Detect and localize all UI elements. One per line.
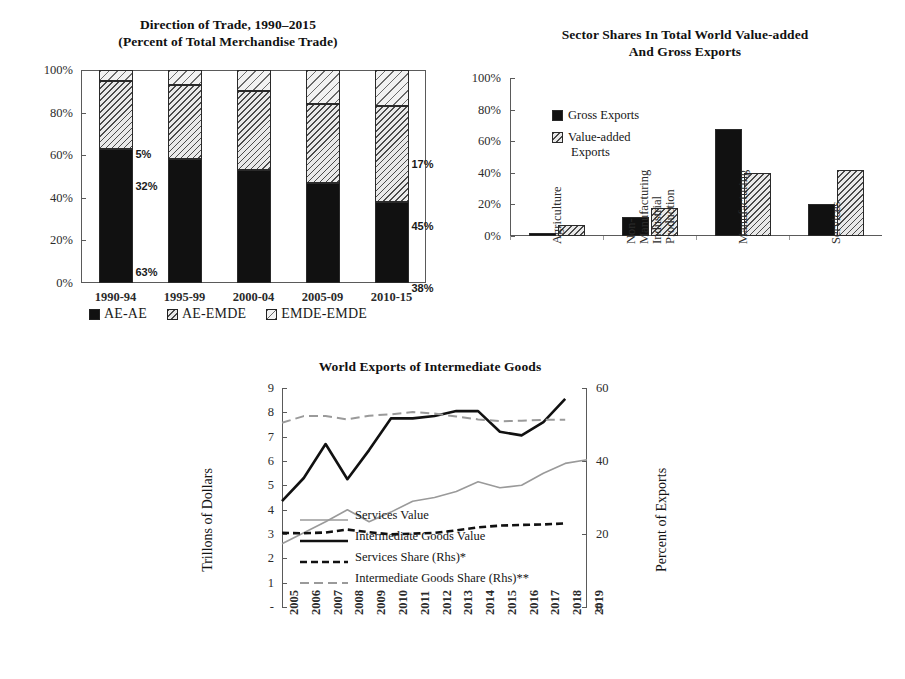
chart1-y-tick-label: 80% <box>18 105 73 120</box>
chart1-legend-swatch-icon <box>167 309 178 320</box>
chart2-x-tick <box>789 236 790 240</box>
chart3-legend-item: Services Value <box>298 508 568 526</box>
chart3-plot-area: Services ValueIntermediate Goods ValueSe… <box>282 388 587 607</box>
chart2-y-tick-label: 0% <box>455 229 501 244</box>
chart2-x-tick-label: Manufacturing <box>736 170 751 244</box>
chart3-y-tick-label: 1 <box>240 575 274 590</box>
chart3-y-axis-title: Trillons of Dollars <box>200 468 216 572</box>
chart3-x-tick-label: 2014 <box>483 590 498 615</box>
chart3-x-tick-label: 2010 <box>396 590 411 615</box>
chart1-plot-area: 5%32%63%17%45%38% <box>81 70 426 283</box>
legend-swatch-hatch-icon <box>552 132 563 143</box>
chart3-legend-line-icon <box>298 514 350 526</box>
chart1-y-tick <box>81 240 86 241</box>
chart3-x-tick-label: 2011 <box>418 591 433 615</box>
chart1-title-line1: Direction of Trade, 1990–2015 <box>18 16 438 33</box>
chart1-right-border <box>425 70 426 283</box>
chart2-title-line2: And Gross Exports <box>485 43 885 60</box>
chart2-y-tick <box>510 173 515 174</box>
chart2-plot-area: Gross Exports Value-added Exports <box>510 78 882 236</box>
chart2-x-tick <box>603 236 604 240</box>
legend-item-value-added-exports: Value-added Exports <box>552 130 712 160</box>
chart1-x-tick-label: 2010-15 <box>357 290 426 305</box>
chart3-legend-label: Intermediate Goods Value <box>355 529 485 544</box>
chart1-legend-label: EMDE-EMDE <box>281 306 367 322</box>
chart3-y-tick-label: - <box>240 600 274 615</box>
chart1-y-tick-label: 40% <box>18 190 73 205</box>
chart1-legend-item: EMDE-EMDE <box>266 306 367 322</box>
chart2-y-tick <box>510 141 515 142</box>
chart1-bar-segment <box>99 70 133 81</box>
chart2-y-tick <box>510 204 515 205</box>
chart1-legend-item: AE-EMDE <box>167 306 246 322</box>
chart2-x-tick <box>510 236 511 240</box>
chart3-x-tick-label: 2006 <box>309 590 324 615</box>
chart1-y-tick <box>81 113 86 114</box>
chart-direction-of-trade: Direction of Trade, 1990–2015 (Percent o… <box>18 8 438 338</box>
chart2-x-tick <box>696 236 697 240</box>
chart1-bar-segment <box>237 170 271 283</box>
chart3-x-tick-label: 2017 <box>548 590 563 615</box>
chart3-y-tick-label: 4 <box>240 502 274 517</box>
chart1-y-axis <box>81 70 82 283</box>
chart2-y-tick-label: 20% <box>455 197 501 212</box>
chart1-y-tick <box>81 198 86 199</box>
chart3-y2-axis-title: Percent of Exports <box>654 468 670 572</box>
chart1-y-tick <box>81 155 86 156</box>
chart3-y-tick-label: 6 <box>240 454 274 469</box>
chart2-legend: Gross Exports Value-added Exports <box>552 108 712 167</box>
chart2-y-tick-label: 100% <box>455 71 501 86</box>
chart1-y-tick-label: 20% <box>18 233 73 248</box>
chart1-y-tick-label: 60% <box>18 148 73 163</box>
legend-swatch-solid-icon <box>552 110 563 121</box>
chart2-y-tick <box>510 78 515 79</box>
chart2-x-tick-label: Agriculture <box>550 186 565 244</box>
chart1-bar-segment <box>99 81 133 149</box>
chart2-y-axis <box>510 78 511 236</box>
chart3-x-tick-label: 2012 <box>440 590 455 615</box>
chart1-data-label: 17% <box>412 158 434 170</box>
chart2-x-tick-label: Production <box>663 189 678 244</box>
chart1-bar-segment <box>168 159 202 283</box>
chart-sector-shares: Sector Shares In Total World Value-added… <box>455 8 895 338</box>
legend-label-value-added-line2: Exports <box>571 145 630 160</box>
chart3-y-tick-label: 5 <box>240 478 274 493</box>
chart3-y-tick-label: 8 <box>240 405 274 420</box>
chart1-y-tick-label: 100% <box>18 63 73 78</box>
chart-world-exports-intermediate-goods: World Exports of Intermediate Goods Tril… <box>200 352 720 679</box>
chart1-legend-label: AE-AE <box>104 306 147 322</box>
chart1-y-tick-label: 0% <box>18 276 73 291</box>
chart2-x-tick-label: Services <box>829 202 844 244</box>
chart3-x-tick-label: 2018 <box>570 590 585 615</box>
chart3-x-tick-label: 2016 <box>527 590 542 615</box>
chart1-x-tick-label: 1990-94 <box>81 290 150 305</box>
chart3-y-tick-label: 9 <box>240 381 274 396</box>
chart3-x-tick-label: 2007 <box>331 590 346 615</box>
chart1-legend-label: AE-EMDE <box>182 306 246 322</box>
chart1-legend-item: AE-AE <box>89 306 147 322</box>
chart3-y2-tick-label: 20 <box>596 527 609 542</box>
chart1-bar-segment <box>306 70 340 104</box>
chart3-legend-item: Intermediate Goods Share (Rhs)** <box>298 571 568 589</box>
chart3-y2-tick-label: 40 <box>596 454 609 469</box>
chart1-title-line2: (Percent of Total Merchandise Trade) <box>18 33 438 50</box>
chart3-x-tick-label: 2008 <box>352 590 367 615</box>
chart2-title: Sector Shares In Total World Value-added… <box>485 26 885 60</box>
legend-label-value-added-line1: Value-added <box>568 130 630 145</box>
chart2-y-tick-label: 60% <box>455 134 501 149</box>
chart1-data-label: 5% <box>136 148 152 160</box>
chart3-x-tick-label: 2013 <box>461 590 476 615</box>
chart3-legend-label: Intermediate Goods Share (Rhs)** <box>355 571 529 586</box>
chart1-bar-segment <box>168 85 202 160</box>
chart3-y-tick-label: 2 <box>240 551 274 566</box>
chart3-x-tick-label: 2005 <box>287 590 302 615</box>
chart1-bar-segment <box>237 70 271 91</box>
chart3-series-line <box>282 399 565 501</box>
chart1-bar-segment <box>375 202 409 283</box>
chart1-legend-swatch-icon <box>89 309 100 320</box>
chart2-y-tick-label: 40% <box>455 165 501 180</box>
chart2-y-tick-label: 80% <box>455 102 501 117</box>
chart3-x-tick-label: 2009 <box>374 590 389 615</box>
legend-label-gross-exports: Gross Exports <box>568 108 639 123</box>
legend-item-gross-exports: Gross Exports <box>552 108 712 123</box>
